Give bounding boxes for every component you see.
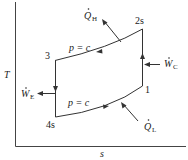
ql-label: Q L xyxy=(144,119,156,134)
x-axis-label: s xyxy=(100,148,104,159)
we-subscript: E xyxy=(30,93,34,101)
ts-diagram: T s 3 2s 1 4s p = c p = c Q H Q L W xyxy=(0,0,188,160)
we-arrow-icon xyxy=(37,91,43,96)
qh-label: Q H xyxy=(84,8,97,23)
ql-symbol: Q xyxy=(144,121,152,132)
wc-subscript: C xyxy=(173,63,178,71)
qh-subscript: H xyxy=(92,15,97,23)
y-axis-label: T xyxy=(4,69,11,80)
down-arrow-icon xyxy=(53,86,58,92)
qh-symbol: Q xyxy=(84,10,92,21)
up-arrow-icon xyxy=(140,53,145,59)
pressure-label-top: p = c xyxy=(68,42,91,53)
wc-arrow-icon xyxy=(144,62,150,67)
state-2s-label: 2s xyxy=(135,15,144,26)
state-4s-label: 4s xyxy=(46,119,55,130)
qh-arrow-line xyxy=(104,21,121,42)
left-arrow-icon xyxy=(96,49,103,54)
we-label: W E xyxy=(21,87,34,101)
state-3-label: 3 xyxy=(45,50,50,61)
ql-subscript: L xyxy=(152,126,156,134)
wc-label: W C xyxy=(164,57,178,71)
state-1-label: 1 xyxy=(145,84,150,95)
pressure-label-bottom: p = c xyxy=(67,97,90,108)
ql-arrow-line xyxy=(123,104,138,121)
